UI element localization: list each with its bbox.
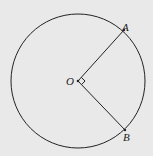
- circle-diagram: O A B: [0, 0, 153, 156]
- label-a: A: [121, 21, 129, 33]
- label-b: B: [123, 131, 130, 143]
- center-point: [77, 80, 80, 83]
- label-o: O: [66, 75, 74, 87]
- radius-oa: [78, 30, 124, 81]
- right-angle-marker: [81, 77, 85, 84]
- radius-ob: [78, 81, 125, 130]
